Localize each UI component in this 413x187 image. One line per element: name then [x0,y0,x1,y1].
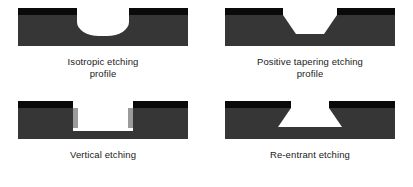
mask-layer-right [337,8,395,15]
cavity-vertical [73,108,133,131]
re-entrant-diagram [207,93,413,151]
panel-vertical: Vertical etching [0,93,206,186]
caption-line-2: profile [207,68,413,80]
mask-gap [77,8,129,15]
sidewall-passivation-right [128,108,133,128]
mask-gap [283,8,337,15]
panel-positive-tapering: Positive tapering etching profile [207,0,413,93]
caption-vertical: Vertical etching [0,149,206,161]
mask-layer-right [133,101,188,108]
etching-profiles-figure: Isotropic etching profile Positive taper… [0,0,413,187]
caption-positive-tapering: Positive tapering etching profile [207,56,413,80]
sidewall-passivation-left [73,108,78,128]
panel-isotropic: Isotropic etching profile [0,0,206,93]
mask-layer-right [329,101,395,108]
mask-gap [73,101,133,108]
caption-line-1: Vertical etching [0,149,206,161]
caption-isotropic: Isotropic etching profile [0,56,206,80]
caption-line-1: Re-entrant etching [207,149,413,161]
mask-layer-right [129,8,188,15]
panel-re-entrant: Re-entrant etching [207,93,413,186]
mask-layer-left [18,101,73,108]
caption-line-1: Positive tapering etching [207,56,413,68]
mask-layer-left [225,101,291,108]
mask-layer-left [225,8,283,15]
caption-re-entrant: Re-entrant etching [207,149,413,161]
mask-gap [291,101,329,108]
vertical-diagram [0,93,206,151]
caption-line-2: profile [0,68,206,80]
isotropic-diagram [0,0,206,58]
positive-taper-diagram [207,0,413,58]
caption-line-1: Isotropic etching [0,56,206,68]
mask-layer-left [18,8,77,15]
